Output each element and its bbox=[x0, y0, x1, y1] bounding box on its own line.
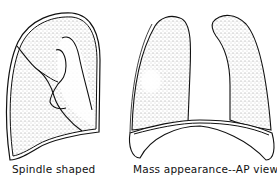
caption-spindle-shaped: Spindle shaped bbox=[12, 163, 95, 175]
mass-lesion bbox=[139, 67, 163, 95]
left-lung-panel bbox=[6, 13, 100, 160]
right-lung-outline bbox=[132, 16, 191, 130]
lung-diagram bbox=[0, 0, 277, 184]
left-lung-outline bbox=[212, 15, 271, 130]
caption-mass-appearance: Mass appearance--AP view bbox=[133, 163, 277, 175]
right-lungs-panel bbox=[129, 15, 274, 160]
